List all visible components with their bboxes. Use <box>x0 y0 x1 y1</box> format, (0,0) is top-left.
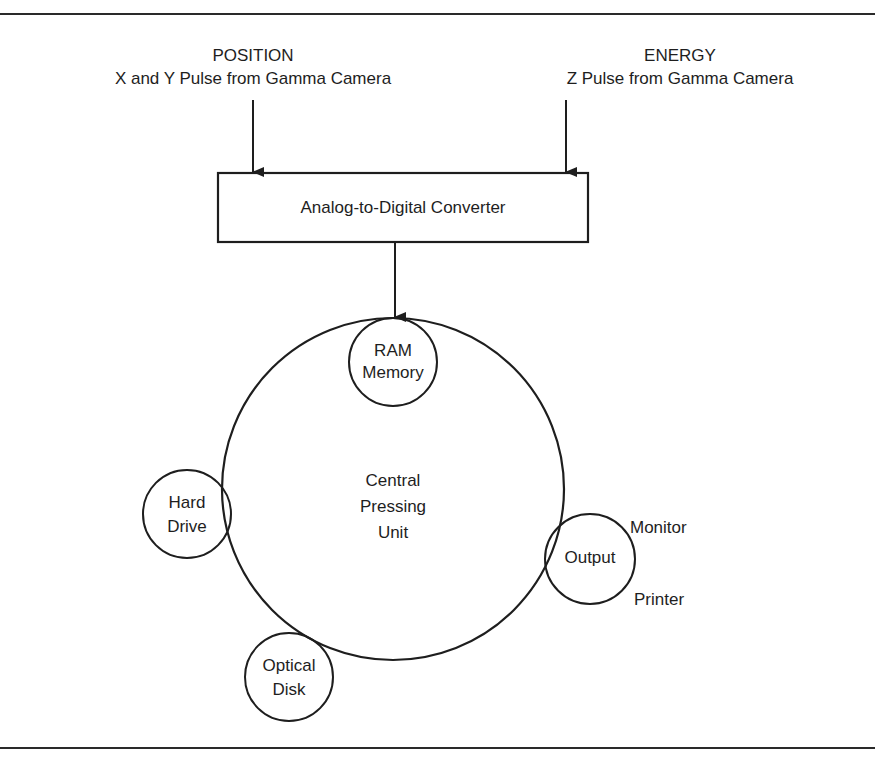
optical-disk-circle <box>245 633 333 721</box>
printer-label: Printer <box>634 589 714 610</box>
optical-disk-label-line2: Disk <box>249 679 329 700</box>
cpu-label-line2: Pressing <box>343 496 443 517</box>
monitor-label: Monitor <box>630 517 710 538</box>
ram-label-line2: Memory <box>353 362 433 383</box>
position-title: POSITION <box>153 45 353 66</box>
hard-drive-circle <box>143 470 231 558</box>
position-subtitle: X and Y Pulse from Gamma Camera <box>103 68 403 89</box>
cpu-label-line1: Central <box>343 470 443 491</box>
adc-label: Analog-to-Digital Converter <box>218 197 588 218</box>
cpu-label-line3: Unit <box>343 522 443 543</box>
output-label: Output <box>550 547 630 568</box>
block-diagram <box>0 0 875 768</box>
hard-drive-label-line1: Hard <box>147 492 227 513</box>
energy-subtitle: Z Pulse from Gamma Camera <box>550 68 810 89</box>
ram-label-line1: RAM <box>353 340 433 361</box>
energy-title: ENERGY <box>580 45 780 66</box>
optical-disk-label-line1: Optical <box>249 655 329 676</box>
hard-drive-label-line2: Drive <box>147 516 227 537</box>
